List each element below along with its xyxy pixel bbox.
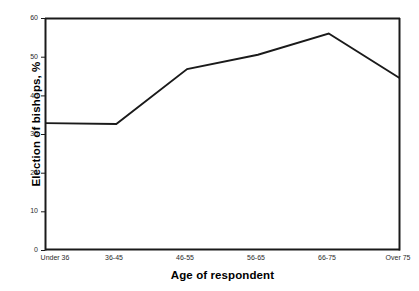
y-tick-label-10: 10	[8, 207, 38, 214]
x-axis-title: Age of respondent	[45, 269, 400, 281]
x-tick-label-under-36: Under 36	[23, 254, 87, 262]
y-tick-label-40: 40	[8, 92, 38, 99]
chart-plot-area	[0, 0, 419, 291]
y-tick-label-50: 50	[8, 53, 38, 60]
data-line-election-of-bishops	[46, 33, 400, 123]
y-tick-label-20: 20	[8, 169, 38, 176]
x-tick-label-36-45: 36-45	[82, 254, 146, 262]
y-tick-label-0: 0	[8, 246, 38, 253]
chart-figure: Election of bishops, % Age of respondent…	[0, 0, 419, 291]
y-tick-label-30: 30	[8, 130, 38, 137]
y-tick-label-60: 60	[8, 14, 38, 21]
x-tick-label-66-75: 66-75	[295, 254, 359, 262]
x-tick-label-over-75: Over 75	[366, 254, 419, 262]
x-tick-label-46-55: 46-55	[153, 254, 217, 262]
x-tick-label-56-65: 56-65	[224, 254, 288, 262]
